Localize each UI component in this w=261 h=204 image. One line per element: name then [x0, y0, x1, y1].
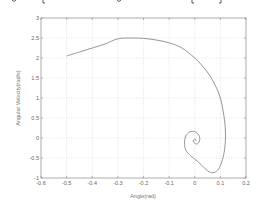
y-tick-label: 0.5: [31, 115, 39, 121]
y-tick-label: 3: [36, 15, 39, 21]
y-tick-label: -1: [34, 175, 39, 181]
y-tick-label: 0: [36, 135, 39, 141]
x-tick-label: 0.2: [242, 180, 250, 186]
x-tick-label: -0.4: [88, 180, 97, 186]
x-tick-label: -0.1: [164, 180, 173, 186]
x-tick-labels: -0.6-0.5-0.4-0.3-0.2-0.100.10.2: [36, 180, 250, 186]
x-tick-label: 0: [193, 180, 196, 186]
x-tick-label: -0.2: [139, 180, 148, 186]
grid-lines: [41, 18, 246, 178]
y-axis-label: Angular Velocity(rad/s): [15, 70, 21, 125]
x-tick-label: -0.3: [113, 180, 122, 186]
y-tick-labels: 32.521.510.50-0.5-1: [30, 15, 39, 181]
x-tick-label: 0.1: [217, 180, 225, 186]
phase-portrait-chart: -0.6-0.5-0.4-0.3-0.2-0.100.10.2 32.521.5…: [0, 0, 261, 204]
x-axis-label: Angle(rad): [130, 193, 156, 199]
y-tick-label: 1.5: [31, 75, 39, 81]
y-tick-label: 2: [36, 55, 39, 61]
y-tick-label: 1: [36, 95, 39, 101]
x-tick-label: -0.5: [62, 180, 71, 186]
y-tick-label: 2.5: [31, 35, 39, 41]
y-tick-label: -0.5: [30, 155, 39, 161]
